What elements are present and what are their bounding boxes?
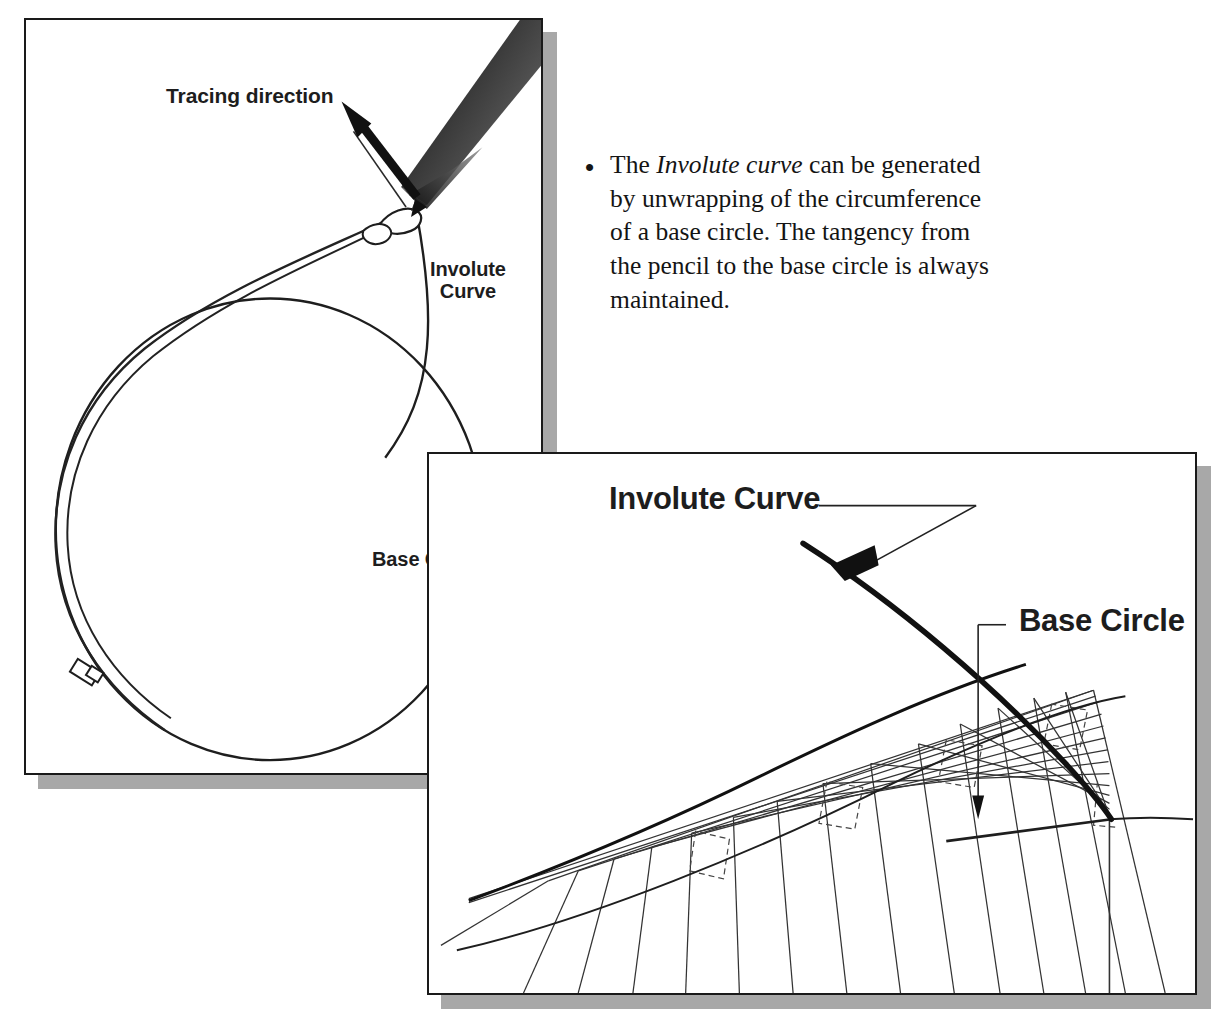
string-inner-strand: [67, 216, 409, 718]
involute-curve-tail: [469, 664, 1026, 900]
right-panel-artwork: [429, 454, 1195, 993]
label-base-circle-right: Base Circle: [1019, 604, 1185, 639]
label-involute-curve-left-line2: Curve: [440, 280, 496, 302]
involute-curve-path: [385, 215, 428, 458]
label-tracing-direction: Tracing direction: [166, 84, 334, 108]
pencil-icon: [401, 20, 541, 217]
involute-leader-line: [819, 506, 976, 581]
bullet-text-part1: The: [610, 150, 656, 179]
base-circle-arc-right: [1109, 818, 1193, 819]
tangent-construction-lines: [441, 690, 1165, 993]
label-involute-curve-left-line1: Involute: [430, 258, 506, 280]
string-outer-strand: [55, 209, 411, 730]
bullet-marker: •: [585, 154, 594, 180]
chord-tick-marks: [690, 704, 1116, 879]
right-panel: Involute Curve Base Circle: [427, 452, 1197, 995]
bullet-text-italic: Involute curve: [656, 150, 803, 179]
bullet-text: The Involute curve can be generated by u…: [610, 148, 1005, 316]
tracing-direction-arrow: [342, 102, 417, 197]
label-involute-curve-left: InvoluteCurve: [430, 258, 506, 303]
base-circle-arc: [457, 696, 1126, 950]
involute-leader-arrowhead: [831, 545, 879, 581]
base-circle-tangent-segment: [946, 819, 1111, 841]
string-clip: [70, 659, 104, 685]
bullet-paragraph: • The Involute curve can be generated by…: [585, 148, 1005, 316]
label-involute-curve-right: Involute Curve: [609, 482, 820, 517]
